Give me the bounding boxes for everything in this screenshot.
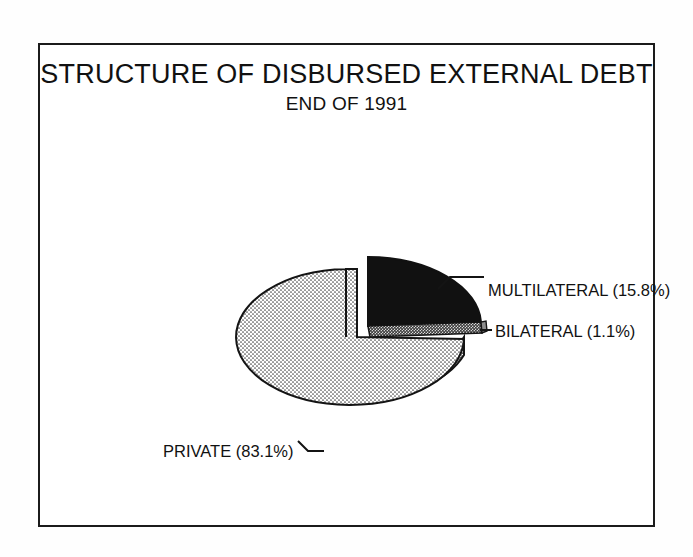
slice-label-private: PRIVATE (83.1%) xyxy=(163,442,294,461)
pie-multilateral-slice xyxy=(368,257,481,326)
slice-label-bilateral: BILATERAL (1.1%) xyxy=(495,322,635,341)
bilateral-side-wall xyxy=(481,321,487,333)
chart-screenshot: STRUCTURE OF DISBURSED EXTERNAL DEBT END… xyxy=(0,0,693,557)
chart-frame: STRUCTURE OF DISBURSED EXTERNAL DEBT END… xyxy=(38,43,655,527)
private-leader-line xyxy=(298,441,324,451)
multilateral-top-face xyxy=(368,257,481,326)
slice-label-multilateral: MULTILATERAL (15.8%) xyxy=(488,281,670,300)
